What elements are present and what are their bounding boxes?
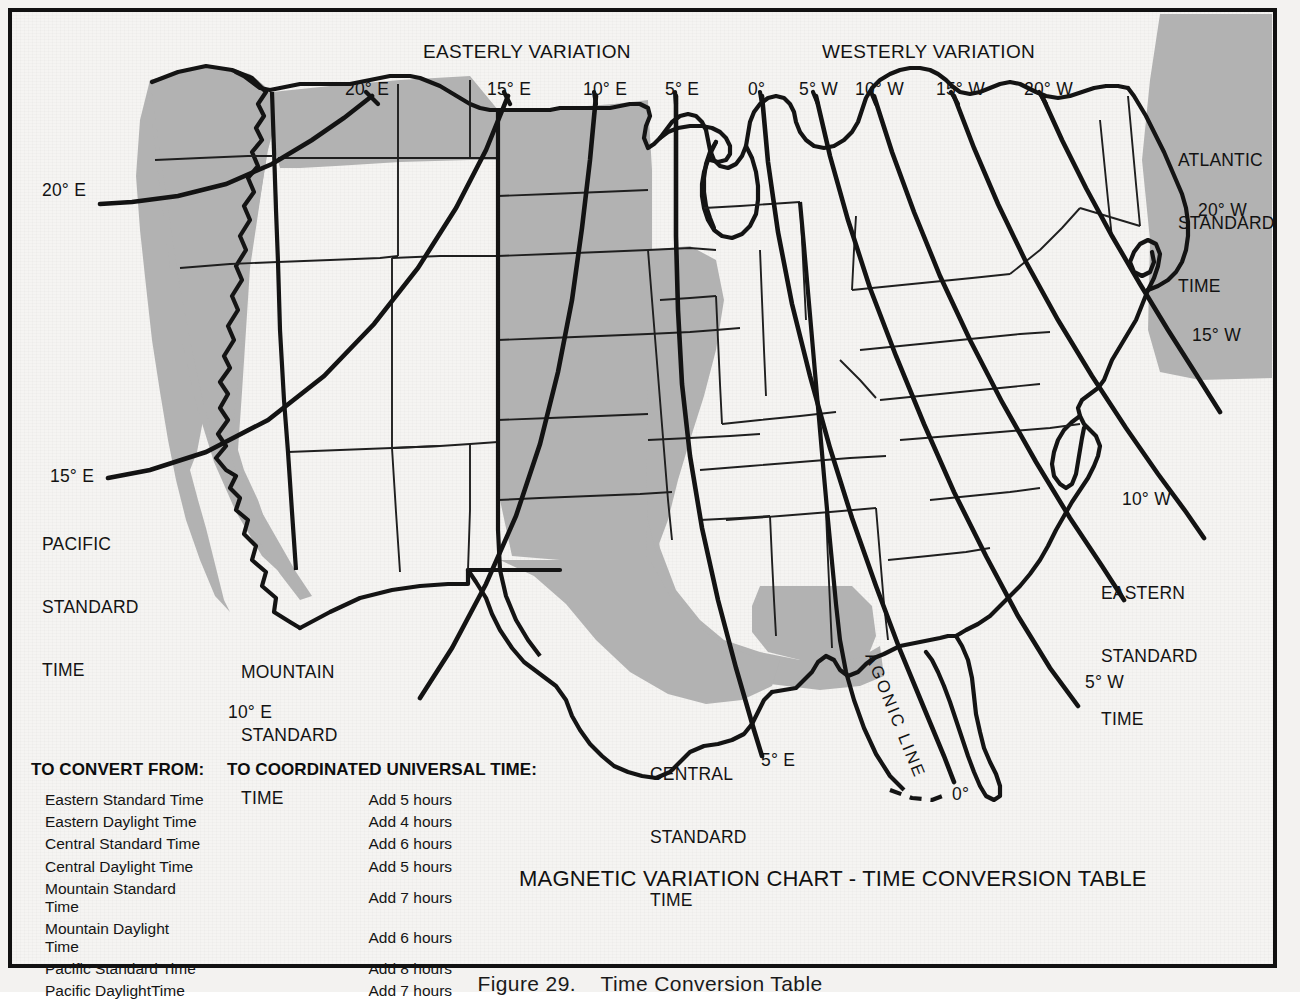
- zone-label-pacific-line2: STANDARD: [42, 597, 139, 618]
- row-to: Add 6 hours: [204, 918, 631, 958]
- zone-label-eastern-line2: STANDARD: [1101, 646, 1198, 667]
- header-coordinated-universal-time: TO COORDINATED UNIVERSAL TIME:: [227, 760, 607, 780]
- row-from: Mountain Daylight Time: [31, 918, 204, 958]
- row-from: Central Standard Time: [31, 833, 204, 855]
- isogonic-edge-label-0: 0°: [952, 784, 969, 804]
- isogonic-10W: [874, 96, 1124, 600]
- isogonic-edge-label-10W: 10° W: [1122, 489, 1171, 509]
- row-from: Eastern Standard Time: [31, 789, 204, 811]
- zone-label-mountain-line2: STANDARD: [241, 725, 338, 746]
- isogonic-top-label-15W: 15° W: [936, 79, 985, 99]
- westerly-variation-heading: WESTERLY VARIATION: [822, 42, 1035, 62]
- zone-label-pacific-line1: PACIFIC: [42, 534, 139, 555]
- isogonic-edge-label-20E: 20° E: [42, 180, 86, 200]
- zone-label-eastern-line3: TIME: [1101, 709, 1198, 730]
- row-to: Add 6 hours: [204, 833, 631, 855]
- table-row: Eastern Daylight Time Add 4 hours: [31, 811, 631, 833]
- isogonic-edge-label-5E: 5° E: [761, 750, 795, 770]
- row-from: Central Daylight Time: [31, 856, 204, 878]
- isogonic-top-label-10W: 10° W: [855, 79, 904, 99]
- zone-label-atlantic-line3: TIME: [1178, 276, 1275, 297]
- zone-label-central-line3: TIME: [650, 890, 747, 911]
- isogonic-top-label-10E: 10° E: [583, 79, 627, 99]
- header-convert-from: TO CONVERT FROM:: [31, 760, 227, 780]
- isogonic-top-label-20E: 20° E: [345, 79, 389, 99]
- zone-label-pacific: PACIFIC STANDARD TIME: [42, 492, 139, 723]
- zone-label-central: CENTRAL STANDARD TIME: [650, 722, 747, 953]
- isogonic-top-label-15E: 15° E: [487, 79, 531, 99]
- table-row: Mountain Daylight Time Add 6 hours: [31, 918, 631, 958]
- isogonic-top-label-5E: 5° E: [665, 79, 699, 99]
- zone-label-mountain-line1: MOUNTAIN: [241, 662, 338, 683]
- isogonic-top-label-5W: 5° W: [799, 79, 838, 99]
- zone-label-central-line1: CENTRAL: [650, 764, 747, 785]
- chart-title: MAGNETIC VARIATION CHART - TIME CONVERSI…: [519, 866, 1147, 892]
- row-from: Mountain Standard Time: [31, 878, 204, 918]
- isogonic-top-label-20W: 20° W: [1024, 79, 1073, 99]
- conversion-rows: Eastern Standard Time Add 5 hours Easter…: [31, 789, 631, 1003]
- row-from: Eastern Daylight Time: [31, 811, 204, 833]
- zone-label-central-line2: STANDARD: [650, 827, 747, 848]
- zone-label-atlantic-line1: ATLANTIC: [1178, 150, 1275, 171]
- row-to: Add 4 hours: [204, 811, 631, 833]
- figure-caption: Figure 29. Time Conversion Table: [0, 972, 1300, 996]
- zone-label-eastern: EASTERN STANDARD TIME: [1101, 541, 1198, 772]
- row-to: Add 5 hours: [204, 789, 631, 811]
- zone-label-atlantic: ATLANTIC STANDARD TIME: [1178, 108, 1275, 339]
- table-row: Eastern Standard Time Add 5 hours: [31, 789, 631, 811]
- table-row: Central Standard Time Add 6 hours: [31, 833, 631, 855]
- zone-label-atlantic-line2: STANDARD: [1178, 213, 1275, 234]
- zone-label-eastern-line1: EASTERN: [1101, 583, 1198, 604]
- zone-label-pacific-line3: TIME: [42, 660, 139, 681]
- easterly-variation-heading: EASTERLY VARIATION: [423, 42, 631, 62]
- conversion-table-header: TO CONVERT FROM: TO COORDINATED UNIVERSA…: [31, 760, 631, 780]
- isogonic-edge-label-15E: 15° E: [50, 466, 94, 486]
- isogonic-top-label-0: 0°: [748, 79, 765, 99]
